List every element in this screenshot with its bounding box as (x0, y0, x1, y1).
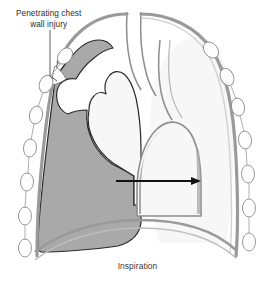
injury-label-line1: Penetrating chest (16, 9, 81, 20)
thorax-cross-section-diagram (0, 0, 275, 283)
injury-label-line2: wall injury (16, 20, 81, 31)
injury-annotation-label: Penetrating chest wall injury (16, 9, 81, 30)
figure-caption: Inspiration (0, 261, 275, 272)
